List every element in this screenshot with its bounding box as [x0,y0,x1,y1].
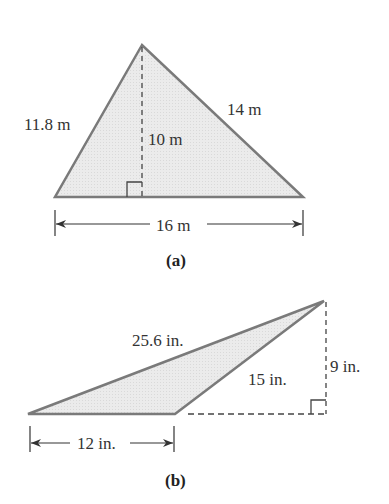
label-base-b: 12 in. [77,434,116,453]
label-base-a: 16 m [156,216,190,235]
right-angle-marker-b [311,400,326,414]
label-short-side-b: 15 in. [248,370,287,389]
label-long-side-b: 25.6 in. [132,331,183,350]
figure-b: 25.6 in. 15 in. 9 in. 12 in. (b) [28,301,360,490]
triangle-area-diagram: 11.8 m 14 m 10 m 16 m (a) 25.6 in. 15 in… [0,0,389,504]
figure-a: 11.8 m 14 m 10 m 16 m (a) [24,45,303,270]
label-left-side-a: 11.8 m [24,115,71,134]
caption-b: (b) [165,471,186,490]
triangle-a [55,45,303,197]
label-height-b: 9 in. [330,357,360,376]
caption-a: (a) [166,251,186,270]
label-height-a: 10 m [148,130,182,149]
label-right-side-a: 14 m [227,100,261,119]
triangle-b [28,301,324,414]
